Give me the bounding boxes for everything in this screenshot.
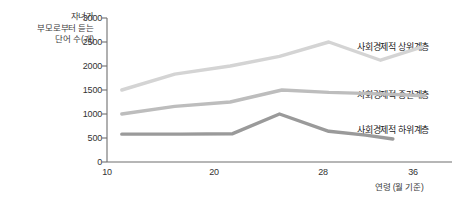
series-line-lower: [122, 114, 393, 139]
series-line-middle: [122, 90, 425, 114]
series-paths: [122, 42, 425, 139]
line-chart: 자녀가 부모로부터 듣는 단어 수(개) 3000 2500 2000 1500…: [0, 0, 458, 203]
plot-area: [0, 0, 458, 203]
y-tick-marks: [102, 18, 107, 162]
series-line-upper: [122, 42, 423, 90]
